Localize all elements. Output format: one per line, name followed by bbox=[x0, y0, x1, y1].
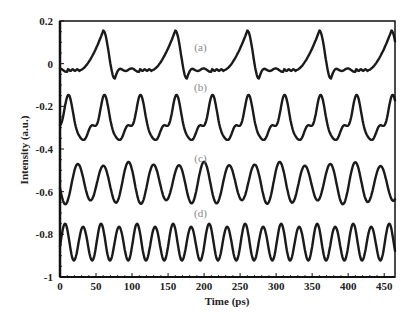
panel-label: (b) bbox=[194, 81, 207, 94]
y-tick-label: -0.4 bbox=[36, 143, 54, 155]
panel-label: (d) bbox=[194, 207, 207, 220]
trace-c bbox=[60, 162, 395, 204]
x-tick-label: 0 bbox=[57, 280, 63, 292]
x-axis-ticks: 050100150200250300350400450 bbox=[57, 273, 393, 292]
y-tick-label: 0 bbox=[48, 58, 54, 70]
x-tick-label: 300 bbox=[268, 280, 285, 292]
x-tick-label: 250 bbox=[232, 280, 249, 292]
x-tick-label: 50 bbox=[91, 280, 103, 292]
x-tick-label: 100 bbox=[124, 280, 141, 292]
x-tick-label: 400 bbox=[340, 280, 357, 292]
intensity-chart: 050100150200250300350400450 0.20-0.2-0.4… bbox=[0, 0, 413, 323]
trace-b bbox=[60, 95, 395, 140]
trace-d bbox=[60, 224, 395, 261]
y-tick-label: -0.8 bbox=[36, 228, 54, 240]
x-tick-label: 350 bbox=[304, 280, 321, 292]
y-tick-label: -0.6 bbox=[36, 186, 54, 198]
y-tick-label: -1 bbox=[44, 271, 53, 283]
y-axis-title: Intensity (a.u.) bbox=[18, 115, 31, 184]
y-tick-label: -0.2 bbox=[36, 100, 54, 112]
trace-a bbox=[60, 31, 395, 79]
traces bbox=[60, 31, 395, 261]
panel-label: (c) bbox=[194, 152, 207, 165]
y-tick-label: 0.2 bbox=[39, 15, 53, 27]
panel-label: (a) bbox=[194, 41, 207, 54]
x-tick-label: 450 bbox=[376, 280, 393, 292]
x-axis-title: Time (ps) bbox=[205, 295, 250, 308]
x-tick-label: 200 bbox=[196, 280, 213, 292]
x-tick-label: 150 bbox=[160, 280, 177, 292]
